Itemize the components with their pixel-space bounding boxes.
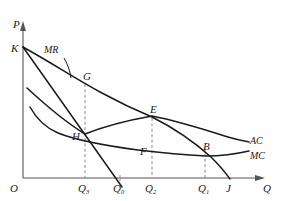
ac-curve-label: AC bbox=[249, 135, 263, 146]
y-axis-arrow-icon bbox=[20, 21, 26, 31]
x-axis-arrow-icon bbox=[255, 175, 265, 181]
x-axis-label: Q bbox=[263, 182, 271, 194]
x-tick-labels: Q 3 Q 0 Q 2 Q 1 J bbox=[78, 182, 232, 195]
mr-line bbox=[23, 47, 122, 187]
x-tick-q2-base: Q bbox=[145, 182, 153, 194]
mr-curve-label: MR bbox=[43, 44, 58, 55]
curve-group bbox=[23, 47, 249, 187]
x-tick-q0: Q 0 bbox=[113, 182, 125, 195]
economics-diagram-figure: P Q O Q 3 Q 0 Q 2 Q 1 J bbox=[0, 0, 283, 201]
mc-curve-label: MC bbox=[249, 150, 265, 161]
point-label-h: H bbox=[71, 130, 81, 142]
point-label-b: B bbox=[203, 140, 210, 152]
x-tick-j: J bbox=[226, 182, 232, 194]
x-tick-q0-sub: 0 bbox=[121, 188, 125, 195]
x-tick-q3: Q 3 bbox=[78, 182, 90, 195]
x-tick-q3-sub: 3 bbox=[85, 188, 90, 195]
dropline-group bbox=[85, 84, 205, 178]
x-tick-q3-base: Q bbox=[78, 182, 86, 194]
x-tick-q2: Q 2 bbox=[145, 182, 157, 195]
x-tick-q1-sub: 1 bbox=[206, 188, 209, 195]
point-label-e: E bbox=[149, 103, 157, 115]
demand-ar-curve bbox=[23, 47, 230, 179]
x-tick-q0-base: Q bbox=[113, 182, 121, 194]
x-tick-q1: Q 1 bbox=[198, 182, 209, 195]
y-axis-label: P bbox=[12, 18, 20, 30]
x-tick-j-base: J bbox=[226, 182, 232, 194]
origin-label: O bbox=[10, 182, 18, 194]
diagram-canvas: P Q O Q 3 Q 0 Q 2 Q 1 J bbox=[0, 0, 283, 201]
x-tick-q1-base: Q bbox=[198, 182, 206, 194]
point-label-f: F bbox=[139, 145, 147, 157]
x-tick-q2-sub: 2 bbox=[153, 188, 157, 195]
point-label-g: G bbox=[83, 70, 91, 82]
point-label-k: K bbox=[10, 42, 19, 54]
